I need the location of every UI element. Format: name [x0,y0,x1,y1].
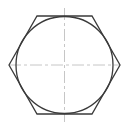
technical-drawing [0,0,129,128]
